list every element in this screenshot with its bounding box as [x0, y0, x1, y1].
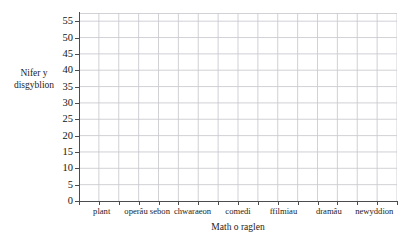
x-axis-category-label: ffilmiau — [270, 206, 298, 216]
y-axis-tick-label: 5 — [48, 179, 73, 190]
y-axis-tick-mark — [75, 119, 79, 120]
x-axis-category-label: comedi — [225, 206, 250, 216]
y-axis-tick-label: 55 — [48, 16, 73, 27]
y-axis-tick-mark — [75, 185, 79, 186]
x-axis-tick-mark — [377, 201, 378, 205]
y-axis-tick-mark — [75, 136, 79, 137]
y-axis-tick-mark — [75, 103, 79, 104]
y-axis-tick-mark — [75, 152, 79, 153]
x-axis-tick-mark — [198, 201, 199, 205]
y-axis-tick-label: 25 — [48, 114, 73, 125]
x-axis-tick-mark — [99, 201, 100, 205]
y-axis-tick-label: 35 — [48, 81, 73, 92]
y-axis-tick-mark — [75, 54, 79, 55]
y-axis-tick-label: 40 — [48, 65, 73, 76]
x-axis-tick-mark — [357, 201, 358, 205]
y-axis-tick-label: 45 — [48, 49, 73, 60]
y-axis-tick-mark — [75, 38, 79, 39]
x-axis-tick-mark — [258, 201, 259, 205]
y-axis-tick-mark — [75, 70, 79, 71]
y-axis-tick-mark — [75, 21, 79, 22]
x-axis-category-label: chwaraeon — [174, 206, 211, 216]
x-axis-tick-mark — [218, 201, 219, 205]
y-axis-tick-label: 20 — [48, 130, 73, 141]
y-axis-tick-label: 10 — [48, 163, 73, 174]
x-axis-tick-mark — [298, 201, 299, 205]
x-axis-category-label: operâu sebon — [124, 206, 170, 216]
x-axis-category-label: plant — [93, 206, 110, 216]
x-axis-tick-mark — [79, 201, 80, 205]
chart-figure: Nifer y disgyblion 051015202530354045505… — [0, 0, 410, 243]
x-axis-tick-mark — [397, 201, 398, 205]
x-axis-tick-mark — [337, 201, 338, 205]
x-axis-category-label: dramâu — [316, 206, 342, 216]
y-axis-tick-label: 50 — [48, 32, 73, 43]
x-axis-tick-mark — [159, 201, 160, 205]
y-axis-line — [79, 12, 80, 202]
x-axis-tick-mark — [278, 201, 279, 205]
x-axis-title: Math o raglen — [79, 222, 397, 233]
x-axis-category-label: newyddion — [355, 206, 393, 216]
x-axis-tick-mark — [318, 201, 319, 205]
grid-lines — [79, 13, 397, 201]
x-axis-tick-mark — [139, 201, 140, 205]
x-axis-tick-mark — [238, 201, 239, 205]
y-axis-tick-label: 30 — [48, 98, 73, 109]
y-axis-tick-mark — [75, 168, 79, 169]
x-axis-tick-mark — [178, 201, 179, 205]
x-axis-tick-mark — [119, 201, 120, 205]
y-axis-tick-label: 0 — [48, 196, 73, 207]
y-axis-tick-mark — [75, 87, 79, 88]
y-axis-tick-labels: 0510152025303540455055 — [48, 0, 73, 243]
plot-area — [79, 13, 397, 201]
y-axis-tick-label: 15 — [48, 147, 73, 158]
